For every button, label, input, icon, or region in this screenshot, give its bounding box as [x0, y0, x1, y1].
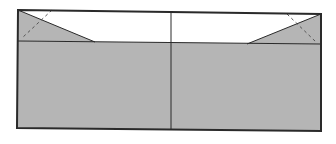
cross-section-diagram — [0, 0, 336, 144]
lower-shaded-region — [17, 41, 321, 131]
diagram-canvas — [0, 0, 336, 144]
